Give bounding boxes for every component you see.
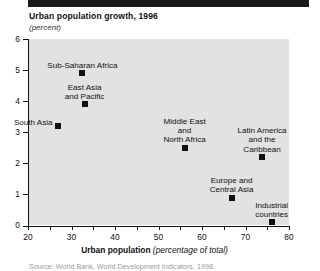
- chart-title: Urban population growth, 1996: [29, 11, 158, 21]
- y-tick-mark: [23, 194, 28, 195]
- chart-figure: Urban population growth, 1996 (percent) …: [0, 0, 309, 270]
- data-point-label-line: East Asia: [68, 83, 102, 92]
- y-tick-label: 3: [0, 127, 20, 137]
- data-point-label-line: Sub-Saharan Africa: [47, 61, 117, 70]
- x-tick-label: 30: [57, 232, 87, 242]
- x-tick-label: 50: [144, 232, 174, 242]
- data-point-label-line: and the: [248, 135, 275, 144]
- x-tick-mark: [72, 226, 73, 230]
- data-point-label-line: and Pacific: [65, 92, 105, 101]
- x-tick-label: 70: [231, 232, 261, 242]
- data-point-label-line: Industrial: [255, 201, 288, 210]
- y-tick-label: 6: [0, 34, 20, 44]
- x-tick-mark: [115, 226, 116, 230]
- y-tick-label: 1: [0, 189, 20, 199]
- x-tick-mark: [289, 226, 290, 230]
- source-note: Source: World Bank, World Development In…: [29, 262, 215, 271]
- data-point-marker: [82, 101, 88, 107]
- data-point-label-line: Central Asia: [210, 185, 254, 194]
- data-point-label-line: countries: [255, 210, 288, 219]
- y-tick-mark: [23, 70, 28, 71]
- x-tick-label: 80: [274, 232, 304, 242]
- x-tick-mark: [159, 226, 160, 230]
- y-tick-mark: [23, 39, 28, 40]
- data-point-label: Latin Americaand theCaribbean: [108, 126, 320, 154]
- x-axis-title-unit: (percentage of total): [153, 245, 228, 255]
- x-axis-title: Urban population (percentage of total): [0, 245, 309, 255]
- x-tick-mark: [202, 226, 203, 230]
- x-tick-label: 20: [13, 232, 43, 242]
- y-tick-label: 0: [0, 220, 20, 230]
- data-point-marker: [79, 70, 85, 76]
- x-tick-mark: [246, 226, 247, 230]
- data-point-label-line: Europe and: [211, 176, 253, 185]
- x-tick-mark: [28, 226, 29, 230]
- data-point-label: Industrialcountries: [117, 201, 320, 220]
- x-tick-label: 60: [187, 232, 217, 242]
- y-tick-mark: [23, 163, 28, 164]
- data-point-label: Sub-Saharan Africa: [0, 61, 237, 70]
- x-tick-mark: [137, 226, 138, 230]
- data-point-label: East Asiaand Pacific: [0, 83, 239, 102]
- data-point-marker: [269, 219, 275, 225]
- y-tick-mark: [23, 132, 28, 133]
- x-tick-mark: [180, 226, 181, 230]
- y-tick-mark: [23, 101, 28, 102]
- data-point-label-line: Caribbean: [243, 145, 280, 154]
- x-tick-label: 40: [100, 232, 130, 242]
- chart-subtitle: (percent): [29, 23, 61, 32]
- x-tick-mark: [224, 226, 225, 230]
- data-point-label-line: Latin America: [237, 126, 286, 135]
- x-axis-title-main: Urban population: [81, 245, 150, 255]
- y-tick-label: 2: [0, 158, 20, 168]
- x-tick-mark: [50, 226, 51, 230]
- data-point-label-line: Middle East: [163, 117, 205, 126]
- x-tick-mark: [93, 226, 94, 230]
- data-point-marker: [229, 195, 235, 201]
- data-point-label: Europe andCentral Asia: [77, 176, 320, 195]
- data-point-marker: [259, 154, 265, 160]
- header-rule: [28, 0, 309, 7]
- x-tick-mark: [267, 226, 268, 230]
